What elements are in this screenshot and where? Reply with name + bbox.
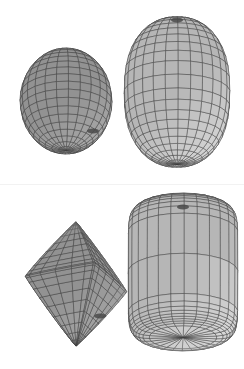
pole-marker-barrel-right [177, 204, 189, 209]
plot-panel-top [0, 0, 244, 185]
mesh-shape-barrel-right [128, 193, 237, 351]
mesh-shape-egg-right [124, 17, 229, 168]
plot-panel-bottom [0, 185, 244, 369]
mesh-surface-group-bottom [0, 185, 244, 369]
mesh-shape-sphere-left [20, 48, 112, 154]
pole-marker-lobed-left [94, 313, 106, 318]
mesh-shape-lobed-left [25, 222, 126, 346]
mesh-surface-group-top [0, 0, 244, 185]
pole-marker-egg-right [171, 17, 183, 22]
figure-container [0, 0, 244, 369]
pole-marker-sphere-left [87, 128, 99, 133]
